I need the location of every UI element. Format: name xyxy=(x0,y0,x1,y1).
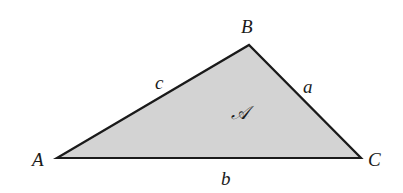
side-label-b: b xyxy=(221,168,231,189)
vertex-label-a: A xyxy=(30,149,44,170)
triangle-diagram: B A C c a b 𝒜 xyxy=(0,0,403,193)
side-label-c: c xyxy=(155,72,164,93)
vertex-label-c: C xyxy=(368,149,381,170)
side-label-a: a xyxy=(303,76,313,97)
vertex-label-b: B xyxy=(241,16,253,37)
triangle-shape xyxy=(57,45,361,158)
